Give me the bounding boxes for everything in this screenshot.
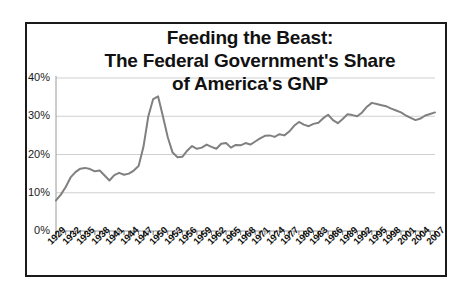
data-series-line <box>56 96 435 200</box>
chart-canvas <box>0 0 468 294</box>
y-axis-tick-label: 20% <box>16 148 50 160</box>
y-axis-tick-label: 40% <box>16 71 50 83</box>
y-axis-tick-label: 10% <box>16 186 50 198</box>
chart-plot-stage <box>0 0 468 294</box>
axis-lines <box>56 76 435 231</box>
y-axis-tick-label: 0% <box>16 224 50 236</box>
y-axis-tick-label: 30% <box>16 109 50 121</box>
